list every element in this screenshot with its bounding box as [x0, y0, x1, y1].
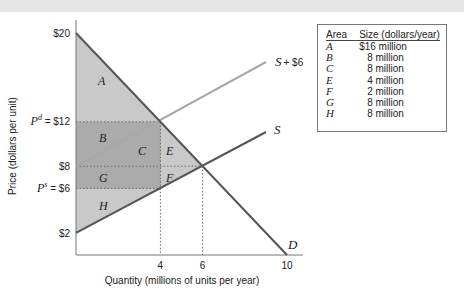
table-header-size: Size (dollars/year)	[347, 29, 440, 41]
region-c-label: C	[138, 144, 147, 158]
table-row: C8 million	[326, 63, 440, 74]
table-header-area: Area	[326, 29, 347, 41]
region-a-label: A	[97, 74, 106, 88]
supply-tax-label: S+ $6	[275, 54, 304, 69]
y-axis-title: Price (dollars per unit)	[7, 97, 18, 195]
table-row: G8 million	[326, 97, 440, 108]
region-g-label: G	[99, 171, 108, 185]
supply-label: S	[274, 122, 281, 137]
y-tick-ps: Ps = $6	[36, 180, 70, 195]
y-tick-2: $2	[59, 228, 71, 239]
table-row: F2 million	[326, 86, 440, 97]
demand-label: D	[287, 237, 298, 252]
table-row: A$16 million	[326, 41, 440, 53]
area-size-table: Area Size (dollars/year) A$16 million B8…	[317, 24, 447, 132]
table-row: B8 million	[326, 52, 440, 63]
x-axis-title: Quantity (millions of units per year)	[105, 275, 260, 286]
region-h-label: H	[98, 199, 109, 213]
y-tick-8: $8	[59, 161, 71, 172]
region-f-label: F	[165, 171, 174, 185]
y-tick-20: $20	[53, 28, 70, 39]
table-row: H8 million	[326, 108, 440, 119]
x-tick-10: 10	[281, 260, 293, 271]
region-e-label: E	[165, 144, 174, 158]
region-dark	[76, 122, 160, 189]
table-row: E4 million	[326, 75, 440, 86]
region-b-label: B	[99, 131, 107, 145]
x-tick-4: 4	[158, 260, 164, 271]
y-tick-pd: Pd = $12	[30, 113, 71, 128]
x-tick-6: 6	[200, 260, 206, 271]
